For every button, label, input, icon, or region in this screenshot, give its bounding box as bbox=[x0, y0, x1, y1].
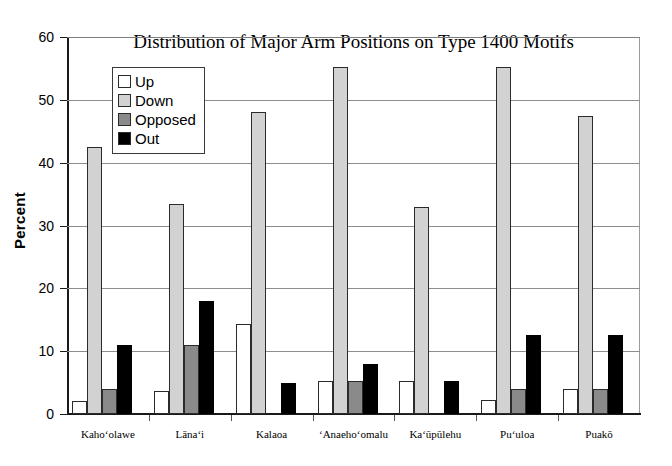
y-tick-mark bbox=[60, 100, 67, 101]
bar-group bbox=[236, 37, 296, 414]
y-tick-mark bbox=[60, 226, 67, 227]
bar-up[interactable] bbox=[154, 391, 169, 414]
bar-up[interactable] bbox=[318, 381, 333, 414]
bar-out[interactable] bbox=[444, 381, 459, 414]
legend-swatch-icon bbox=[118, 132, 131, 145]
y-tick-label: 40 bbox=[8, 156, 54, 170]
y-tick-mark bbox=[60, 163, 67, 164]
bar-down[interactable] bbox=[578, 116, 593, 414]
legend-label: Up bbox=[135, 74, 154, 89]
legend-label: Out bbox=[135, 131, 159, 146]
bar-group bbox=[399, 37, 459, 414]
bar-up[interactable] bbox=[563, 389, 578, 414]
legend-swatch-icon bbox=[118, 113, 131, 126]
x-tick-mark bbox=[149, 415, 150, 421]
bar-down[interactable] bbox=[169, 204, 184, 414]
bar-out[interactable] bbox=[526, 335, 541, 414]
legend-swatch-icon bbox=[118, 94, 131, 107]
chart-legend: UpDownOpposedOut bbox=[112, 67, 205, 154]
bar-down[interactable] bbox=[87, 147, 102, 414]
bar-down[interactable] bbox=[251, 112, 266, 414]
bar-opposed[interactable] bbox=[348, 381, 363, 414]
y-tick-label: 50 bbox=[8, 93, 54, 107]
bar-out[interactable] bbox=[608, 335, 623, 414]
legend-label: Opposed bbox=[135, 112, 196, 127]
bar-out[interactable] bbox=[199, 301, 214, 414]
x-category-label: Puakō bbox=[548, 428, 650, 440]
bar-down[interactable] bbox=[333, 67, 348, 414]
bar-opposed[interactable] bbox=[102, 389, 117, 414]
bar-group bbox=[481, 37, 541, 414]
bar-down[interactable] bbox=[496, 67, 511, 414]
legend-item-up[interactable]: Up bbox=[118, 72, 196, 91]
legend-label: Down bbox=[135, 93, 173, 108]
bar-opposed[interactable] bbox=[511, 389, 526, 414]
bar-out[interactable] bbox=[117, 345, 132, 414]
bar-opposed[interactable] bbox=[184, 345, 199, 414]
legend-swatch-icon bbox=[118, 75, 131, 88]
bar-down[interactable] bbox=[414, 207, 429, 414]
bar-up[interactable] bbox=[72, 401, 87, 414]
x-tick-mark bbox=[394, 415, 395, 421]
bar-opposed[interactable] bbox=[593, 389, 608, 414]
x-tick-mark bbox=[313, 415, 314, 421]
x-tick-mark bbox=[231, 415, 232, 421]
bar-up[interactable] bbox=[399, 381, 414, 414]
bar-group bbox=[563, 37, 623, 414]
y-tick-mark bbox=[60, 37, 67, 38]
legend-item-opposed[interactable]: Opposed bbox=[118, 110, 196, 129]
bar-out[interactable] bbox=[281, 383, 296, 414]
chart-figure: Distribution of Major Arm Positions on T… bbox=[0, 0, 672, 466]
legend-item-out[interactable]: Out bbox=[118, 129, 196, 148]
bar-up[interactable] bbox=[481, 400, 496, 414]
y-tick-mark bbox=[60, 351, 67, 352]
y-tick-label: 0 bbox=[8, 407, 54, 421]
y-tick-label: 10 bbox=[8, 344, 54, 358]
x-tick-mark bbox=[558, 415, 559, 421]
legend-item-down[interactable]: Down bbox=[118, 91, 196, 110]
x-tick-mark bbox=[476, 415, 477, 421]
bar-group bbox=[318, 37, 378, 414]
bar-out[interactable] bbox=[363, 364, 378, 414]
y-axis-label: Percent bbox=[11, 173, 28, 269]
y-tick-label: 60 bbox=[8, 30, 54, 44]
y-tick-mark bbox=[60, 414, 67, 415]
y-tick-mark bbox=[60, 288, 67, 289]
bar-up[interactable] bbox=[236, 324, 251, 414]
y-tick-label: 20 bbox=[8, 281, 54, 295]
